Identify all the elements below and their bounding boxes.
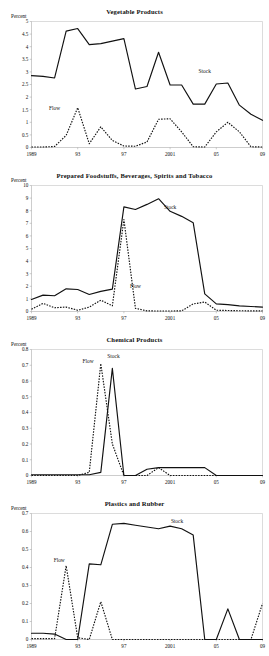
x-tick-label: 2001 bbox=[165, 151, 176, 157]
plot-area-vegetable-products: 00.511.522.533.544.551989939720010509Sto… bbox=[0, 0, 269, 164]
stock-series-annotation: Stock bbox=[107, 353, 120, 359]
x-tick-label: 97 bbox=[121, 315, 127, 321]
y-tick-label: 10 bbox=[23, 182, 29, 188]
flow-series-annotation: Flow bbox=[83, 358, 94, 364]
stock-series-line bbox=[32, 199, 263, 307]
plot-area-prepared-foodstuffs: 0123456789101989939720010509StockFlow bbox=[0, 164, 269, 328]
y-tick-label: 0.7 bbox=[22, 362, 29, 368]
flow-series-annotation: Flow bbox=[54, 557, 65, 563]
x-tick-label: 09 bbox=[260, 479, 266, 485]
y-tick-label: 0.4 bbox=[22, 564, 29, 570]
x-tick-label: 05 bbox=[214, 643, 220, 649]
y-tick-label: 0.2 bbox=[22, 441, 29, 447]
x-tick-label: 1989 bbox=[26, 151, 37, 157]
figure-page: Percent Vegetable Products 00.511.522.53… bbox=[0, 0, 269, 656]
y-tick-label: 5 bbox=[26, 245, 29, 251]
x-tick-label: 93 bbox=[75, 315, 81, 321]
stock-series-annotation: Stock bbox=[171, 518, 184, 524]
flow-series-line bbox=[32, 566, 263, 640]
y-tick-label: 1.5 bbox=[22, 107, 29, 113]
flow-series-line bbox=[32, 108, 263, 147]
y-tick-label: 0.1 bbox=[22, 618, 29, 624]
y-tick-label: 0.3 bbox=[22, 425, 29, 431]
y-tick-label: 4.5 bbox=[22, 31, 29, 37]
x-tick-label: 97 bbox=[121, 643, 127, 649]
y-tick-label: 0.1 bbox=[22, 457, 29, 463]
stock-series-annotation: Stock bbox=[164, 204, 177, 210]
x-tick-label: 05 bbox=[214, 315, 220, 321]
stock-series-annotation: Stock bbox=[199, 68, 212, 74]
y-tick-label: 0.7 bbox=[22, 510, 29, 516]
y-tick-label: 7 bbox=[26, 220, 29, 226]
y-tick-label: 0 bbox=[26, 308, 29, 314]
y-tick-label: 3 bbox=[26, 271, 29, 277]
y-tick-label: 0 bbox=[26, 144, 29, 150]
x-tick-label: 93 bbox=[75, 643, 81, 649]
x-tick-label: 1989 bbox=[26, 315, 37, 321]
y-tick-label: 4 bbox=[26, 258, 29, 264]
x-tick-label: 09 bbox=[260, 315, 266, 321]
y-tick-label: 0.6 bbox=[22, 378, 29, 384]
x-tick-label: 09 bbox=[260, 151, 266, 157]
y-tick-label: 1 bbox=[26, 119, 29, 125]
y-tick-label: 0.2 bbox=[22, 600, 29, 606]
y-tick-label: 2.5 bbox=[22, 81, 29, 87]
chart-prepared-foodstuffs: Percent Prepared Foodstuffs, Beverages, … bbox=[0, 164, 269, 328]
y-tick-label: 1 bbox=[26, 296, 29, 302]
x-tick-label: 09 bbox=[260, 643, 266, 649]
flow-series-line bbox=[32, 220, 263, 311]
stock-series-line bbox=[32, 29, 263, 121]
y-tick-label: 0 bbox=[26, 472, 29, 478]
y-tick-label: 5 bbox=[26, 18, 29, 24]
flow-series-annotation: Flow bbox=[49, 105, 60, 111]
y-tick-label: 2 bbox=[26, 94, 29, 100]
y-tick-label: 8 bbox=[26, 208, 29, 214]
y-tick-label: 0.5 bbox=[22, 546, 29, 552]
y-tick-label: 3 bbox=[26, 69, 29, 75]
x-tick-label: 97 bbox=[121, 151, 127, 157]
y-tick-label: 4 bbox=[26, 44, 29, 50]
x-tick-label: 2001 bbox=[165, 479, 176, 485]
x-tick-label: 05 bbox=[214, 479, 220, 485]
chart-chemical-products: Percent Chemical Products 00.10.20.30.40… bbox=[0, 328, 269, 492]
y-tick-label: 6 bbox=[26, 233, 29, 239]
y-tick-label: 0.5 bbox=[22, 394, 29, 400]
y-tick-label: 0.6 bbox=[22, 528, 29, 534]
chart-vegetable-products: Percent Vegetable Products 00.511.522.53… bbox=[0, 0, 269, 164]
y-tick-label: 0 bbox=[26, 636, 29, 642]
stock-series-line bbox=[32, 523, 263, 639]
y-tick-label: 0.5 bbox=[22, 132, 29, 138]
y-tick-label: 0.4 bbox=[22, 409, 29, 415]
x-tick-label: 93 bbox=[75, 151, 81, 157]
x-tick-label: 2001 bbox=[165, 643, 176, 649]
x-tick-label: 97 bbox=[121, 479, 127, 485]
x-tick-label: 2001 bbox=[165, 315, 176, 321]
y-tick-label: 2 bbox=[26, 283, 29, 289]
y-tick-label: 3.5 bbox=[22, 56, 29, 62]
x-tick-label: 1989 bbox=[26, 479, 37, 485]
y-tick-label: 0.3 bbox=[22, 582, 29, 588]
y-tick-label: 0.8 bbox=[22, 346, 29, 352]
y-tick-label: 9 bbox=[26, 195, 29, 201]
x-tick-label: 93 bbox=[75, 479, 81, 485]
x-tick-label: 1989 bbox=[26, 643, 37, 649]
x-tick-label: 05 bbox=[214, 151, 220, 157]
flow-series-line bbox=[32, 364, 263, 476]
plot-area-plastics-and-rubber: 00.10.20.30.40.50.60.71989939720010509St… bbox=[0, 492, 269, 656]
chart-plastics-and-rubber: Percent Plastics and Rubber 00.10.20.30.… bbox=[0, 492, 269, 656]
stock-series-line bbox=[32, 368, 263, 475]
flow-series-annotation: Flow bbox=[130, 283, 141, 289]
plot-area-chemical-products: 00.10.20.30.40.50.60.70.8198993972001050… bbox=[0, 328, 269, 492]
